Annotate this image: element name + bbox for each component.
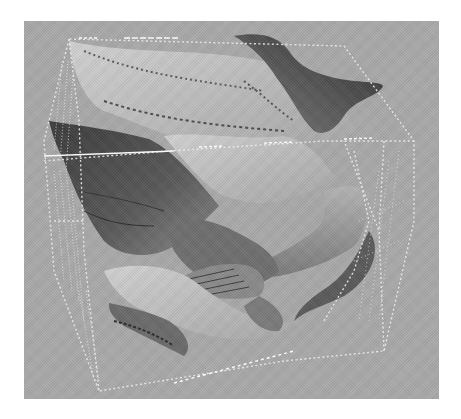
isosurface-render <box>24 21 439 399</box>
isosurface-right-curved <box>260 186 375 321</box>
render-viewport <box>24 21 439 399</box>
